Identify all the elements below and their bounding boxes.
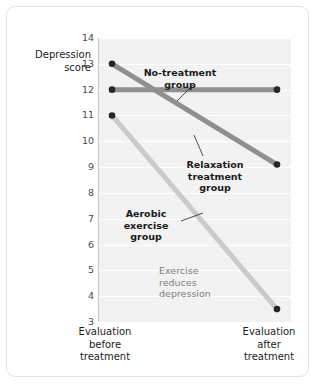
gridline: [99, 322, 291, 323]
x-tick-0-line-2: before: [89, 339, 121, 350]
y-axis-tick-8: 8: [66, 188, 94, 198]
series-label-relaxation: Relaxation treatment group: [175, 159, 255, 194]
y-axis-tick-11: 11: [66, 110, 94, 120]
annotation-exercise-reduces-depression: Exercise reduces depression: [159, 265, 239, 300]
y-axis-tick-4: 4: [66, 291, 94, 301]
no-treatment-line-1: No-treatment: [144, 67, 217, 78]
no-treatment-line-2: group: [164, 79, 196, 90]
data-point-marker: [274, 161, 281, 168]
data-point-marker: [274, 306, 281, 313]
note-line-3: depression: [159, 288, 211, 299]
data-point-marker: [109, 86, 116, 93]
y-axis-tick-7: 7: [66, 214, 94, 224]
y-axis-tick-6: 6: [66, 240, 94, 250]
x-axis-tick-label-after: Evaluation after treatment: [221, 326, 309, 364]
chart-card: Depression score 14131211109876543 Evalu…: [6, 6, 309, 377]
y-axis-tick-5: 5: [66, 265, 94, 275]
relaxation-line-3: group: [199, 182, 231, 193]
x-axis-tick-label-before: Evaluation before treatment: [57, 326, 153, 364]
note-line-1: Exercise: [159, 265, 199, 276]
relaxation-line-1: Relaxation: [186, 159, 243, 170]
y-axis-tick-13: 13: [66, 59, 94, 69]
y-axis-tick-14: 14: [66, 33, 94, 43]
series-label-no-treatment: No-treatment group: [138, 67, 222, 90]
y-axis-tick-10: 10: [66, 136, 94, 146]
aerobic-line-1: Aerobic: [126, 208, 167, 219]
data-point-marker: [274, 86, 281, 93]
x-tick-1-line-2: after: [257, 339, 281, 350]
aerobic-line-2: exercise: [124, 220, 169, 231]
series-label-aerobic: Aerobic exercise group: [113, 208, 179, 243]
x-tick-1-line-1: Evaluation: [243, 326, 296, 337]
relaxation-line-2: treatment: [188, 171, 242, 182]
y-axis-tick-labels: 14131211109876543: [62, 38, 94, 322]
x-tick-1-line-3: treatment: [244, 351, 294, 362]
y-axis-tick-12: 12: [66, 85, 94, 95]
x-tick-0-line-3: treatment: [80, 351, 130, 362]
data-point-marker: [109, 61, 116, 68]
note-line-2: reduces: [159, 277, 197, 288]
aerobic-line-3: group: [130, 231, 162, 242]
x-tick-0-line-1: Evaluation: [79, 326, 132, 337]
y-axis-tick-9: 9: [66, 162, 94, 172]
data-point-marker: [109, 112, 116, 119]
